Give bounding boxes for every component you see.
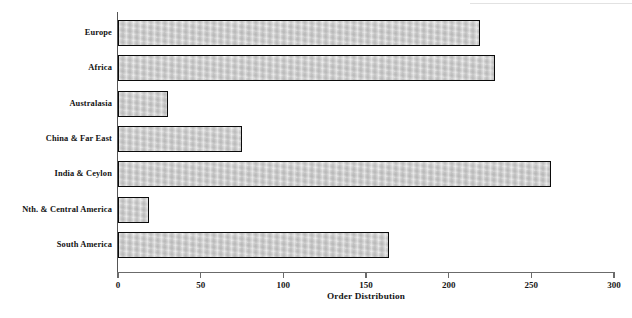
x-axis-tick (283, 272, 284, 278)
x-axis-tick-label: 100 (263, 280, 303, 290)
category-label: South America (0, 240, 112, 250)
x-axis-tick (117, 272, 118, 278)
plot-area: 050100150200250300 (118, 14, 614, 270)
horizontal-bar-chart: EuropeAfricaAustralasiaChina & Far EastI… (0, 0, 632, 318)
bar-rect (118, 161, 551, 187)
category-label: Australasia (0, 99, 112, 109)
bar-rect (118, 126, 242, 152)
x-axis-tick-label: 50 (181, 280, 221, 290)
x-axis-tick (200, 272, 201, 278)
bar-rect (118, 232, 389, 258)
category-label: China & Far East (0, 134, 112, 144)
x-axis-tick (531, 272, 532, 278)
x-axis-tick (613, 272, 614, 278)
x-axis-tick-label: 0 (98, 280, 138, 290)
category-label: Nth. & Central America (0, 205, 112, 215)
bar-rect (118, 55, 495, 81)
category-label: India & Ceylon (0, 169, 112, 179)
x-axis-tick-label: 300 (594, 280, 632, 290)
category-label: Europe (0, 28, 112, 38)
bar-rect (118, 197, 149, 223)
x-axis-tick-label: 150 (346, 280, 386, 290)
x-axis-title: Order Distribution (118, 291, 614, 301)
category-label: Africa (0, 63, 112, 73)
x-axis-tick-label: 200 (429, 280, 469, 290)
bar-rect (118, 91, 168, 117)
category-axis-labels: EuropeAfricaAustralasiaChina & Far EastI… (0, 14, 112, 270)
bar-rect (118, 20, 480, 46)
x-axis-tick-label: 250 (511, 280, 551, 290)
x-axis-tick (365, 272, 366, 278)
x-axis-tick (448, 272, 449, 278)
